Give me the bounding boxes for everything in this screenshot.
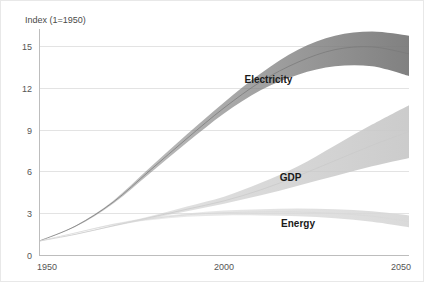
series-label-energy: Energy: [281, 218, 315, 229]
x-tick-label-2050: 2050: [391, 262, 411, 272]
y-axis-title-text: Index (1=1950): [25, 15, 86, 25]
chart-figure: 03691215 195020002050 Index (1=1950) Ele…: [0, 0, 424, 282]
x-tick-label-1950: 1950: [37, 262, 57, 272]
y-tick-label-9: 9: [27, 126, 32, 136]
series-bands-group: [39, 32, 409, 242]
y-axis-tick-labels: 03691215: [22, 42, 32, 260]
series-label-gdp: GDP: [280, 172, 302, 183]
y-tick-label-12: 12: [22, 84, 32, 94]
series-inline-labels: ElectricityGDPEnergy: [244, 74, 315, 229]
y-axis-title: Index (1=1950): [25, 15, 86, 25]
y-tick-label-15: 15: [22, 42, 32, 52]
series-band-gdp: [39, 105, 409, 241]
y-tick-label-6: 6: [27, 167, 32, 177]
x-tick-label-2000: 2000: [214, 262, 234, 272]
y-tick-label-0: 0: [27, 251, 32, 261]
series-label-electricity: Electricity: [244, 74, 292, 85]
x-axis-tick-labels: 195020002050: [37, 262, 411, 272]
y-tick-label-3: 3: [27, 209, 32, 219]
chart-plot-area: 03691215 195020002050 Index (1=1950) Ele…: [1, 1, 424, 282]
